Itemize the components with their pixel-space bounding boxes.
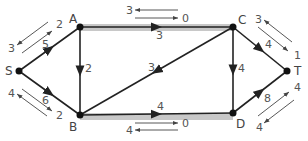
- flow-label-c-t-forward: 1: [294, 50, 301, 61]
- node-t: [284, 68, 291, 75]
- flow-arrow-d-t-forward: [258, 92, 289, 116]
- flow-label-c-t-backward: 3: [255, 14, 262, 25]
- node-s: [16, 68, 23, 75]
- edge-d-t: [233, 71, 287, 113]
- node-label-c: C: [238, 14, 246, 26]
- edge-label-s-b: 6: [42, 95, 49, 106]
- edge-label-c-b: 3: [148, 62, 155, 73]
- node-c: [230, 24, 237, 31]
- flow-label-s-a-forward: 2: [56, 19, 63, 30]
- flow-label-d-t-backward: 4: [256, 122, 263, 133]
- node-label-s: S: [5, 65, 13, 77]
- flow-arrow-c-t-forward: [258, 27, 288, 51]
- edge-label-d-t: 8: [264, 93, 271, 104]
- node-label-d: D: [236, 118, 245, 130]
- flow-label-a-c-backward: 3: [126, 5, 133, 16]
- flow-label-a-c-forward: 0: [182, 13, 189, 24]
- flow-label-d-t-forward: 4: [294, 82, 301, 93]
- node-b: [77, 112, 84, 119]
- flow-label-b-d-backward: 4: [126, 125, 133, 136]
- flow-label-b-d-forward: 0: [182, 118, 189, 129]
- edge-label-s-a: 5: [42, 39, 49, 50]
- edge-label-c-t: 4: [265, 39, 272, 50]
- node-d: [230, 110, 237, 117]
- node-label-t: T: [294, 65, 301, 77]
- edge-label-a-b: 2: [85, 63, 92, 74]
- edge-label-c-d: 4: [238, 63, 245, 74]
- edge-label-b-d: 4: [157, 101, 164, 112]
- flow-network-diagram: S A B C D T 5 6 2 3 3 4 4 4 8 2 3 2 4 0 …: [0, 0, 308, 141]
- flow-label-s-a-backward: 3: [8, 43, 15, 54]
- flow-label-s-b-backward: 4: [8, 88, 15, 99]
- node-label-a: A: [69, 13, 77, 25]
- flow-label-s-b-forward: 2: [56, 110, 63, 121]
- edge-label-a-c: 3: [156, 30, 163, 41]
- node-a: [77, 24, 84, 31]
- node-label-b: B: [69, 121, 77, 133]
